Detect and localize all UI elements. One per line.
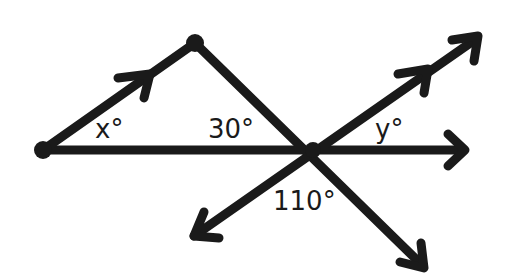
angle-diagram: x° 30° y° 110°	[0, 0, 509, 278]
angle-y-label: y°	[375, 114, 403, 144]
intersection-dot	[305, 142, 321, 158]
top-vertex-dot	[186, 34, 204, 52]
diagram-svg: x° 30° y° 110°	[0, 0, 509, 278]
left-vertex-dot	[34, 141, 52, 159]
angle-x-label: x°	[95, 114, 123, 144]
angle-110-label: 110°	[273, 186, 336, 216]
angle-30-label: 30°	[208, 114, 254, 144]
